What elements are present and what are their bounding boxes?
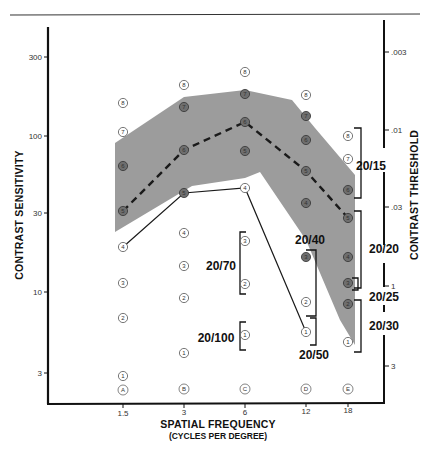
data-point-c7: 7	[240, 89, 249, 98]
data-point-c6: 6	[240, 117, 249, 126]
svg-text:E: E	[346, 386, 350, 392]
column-letter-c: C	[240, 384, 250, 394]
data-point-a6: 6	[118, 161, 127, 170]
column-letter-d: D	[301, 384, 311, 394]
data-point-d1: 1	[301, 327, 310, 336]
right-tick-003: .003	[391, 48, 407, 57]
y-tick-10: 10	[33, 288, 42, 297]
data-point-d4: 4	[301, 198, 310, 207]
y-axis-right-title: CONTRAST THRESHOLD	[408, 130, 420, 260]
data-point-d7: 7	[301, 111, 310, 120]
x-tick-6: 6	[243, 408, 248, 417]
x-tick-3: 3	[182, 408, 187, 417]
column-letter-b: B	[179, 384, 189, 394]
data-point-c2: 2	[240, 279, 249, 288]
acuity-20-25: 20/25	[369, 290, 399, 304]
acuity-20-40: 20/40	[295, 233, 325, 247]
data-point-c4: 4	[240, 183, 249, 192]
data-point-e3: 3	[343, 278, 352, 287]
data-point-a8: 8	[118, 98, 127, 107]
right-tick-01: .01	[391, 126, 403, 135]
data-point-e6: 6	[343, 185, 352, 194]
data-point-e4: 4	[343, 252, 352, 261]
acuity-20-15: 20/15	[356, 159, 386, 173]
column-letter-a: A	[118, 385, 128, 395]
acuity-20-20: 20/20	[369, 242, 399, 256]
data-point-d6: 6	[301, 135, 310, 144]
data-point-e1: 1	[343, 337, 352, 346]
data-point-b5: 5	[179, 188, 188, 197]
data-point-b2: 2	[179, 293, 188, 302]
acuity-20-100: 20/100	[198, 331, 235, 345]
svg-text:C: C	[243, 386, 248, 392]
svg-text:A: A	[121, 387, 125, 393]
data-point-a3: 3	[118, 278, 127, 287]
x-axis-subtitle: (CYCLES PER DEGREE)	[169, 431, 267, 441]
data-point-d2: 2	[301, 297, 310, 306]
y-tick-3: 3	[38, 369, 43, 378]
x-tick-18: 18	[344, 406, 353, 415]
data-point-c5: 5	[240, 146, 249, 155]
y-tick-30: 30	[33, 209, 42, 218]
data-point-d8: 8	[301, 90, 310, 99]
data-point-a4: 4	[118, 242, 127, 251]
data-point-b6: 6	[179, 145, 188, 154]
acuity-20-70: 20/70	[206, 259, 236, 273]
data-point-e2: 2	[343, 299, 352, 308]
data-point-c3: 3	[240, 236, 249, 245]
top-rule	[10, 14, 420, 15]
data-point-a5: 5	[118, 206, 127, 215]
data-point-b7: 7	[179, 102, 188, 111]
data-point-c8: 8	[240, 67, 249, 76]
data-point-b1: 1	[179, 348, 188, 357]
right-tick-03: .03	[391, 203, 403, 212]
svg-text:D: D	[304, 386, 309, 392]
column-letter-e: E	[343, 384, 353, 394]
data-point-d5: 5	[301, 166, 310, 175]
data-point-a1: 1	[118, 371, 127, 380]
data-point-b8: 8	[179, 80, 188, 89]
svg-text:B: B	[182, 386, 186, 392]
y-tick-100: 100	[29, 132, 43, 141]
x-axis	[47, 403, 385, 404]
contrast-sensitivity-chart: 300 100 30 10 3 .003 .01 .03 1 3 1.5 3 6…	[0, 0, 434, 449]
normal-range-band	[115, 90, 355, 345]
data-point-c1: 1	[240, 330, 249, 339]
y-axis-left-title: CONTRAST SENSITIVITY	[13, 150, 25, 279]
data-point-e5: 5	[343, 213, 352, 222]
data-point-b4: 4	[179, 228, 188, 237]
x-axis-title: SPATIAL FREQUENCY	[160, 418, 275, 430]
x-tick-12: 12	[302, 407, 311, 416]
right-tick-3: 3	[391, 362, 396, 371]
data-point-e8: 8	[343, 131, 352, 140]
data-point-d3: 3	[301, 252, 310, 261]
acuity-20-30: 20/30	[369, 319, 399, 333]
data-point-e7: 7	[343, 154, 352, 163]
data-point-a7: 7	[118, 127, 127, 136]
data-point-a2: 2	[118, 313, 127, 322]
data-point-b3: 3	[179, 261, 188, 270]
acuity-20-50: 20/50	[299, 348, 329, 362]
y-tick-300: 300	[29, 53, 43, 62]
x-tick-1-5: 1.5	[117, 409, 129, 418]
